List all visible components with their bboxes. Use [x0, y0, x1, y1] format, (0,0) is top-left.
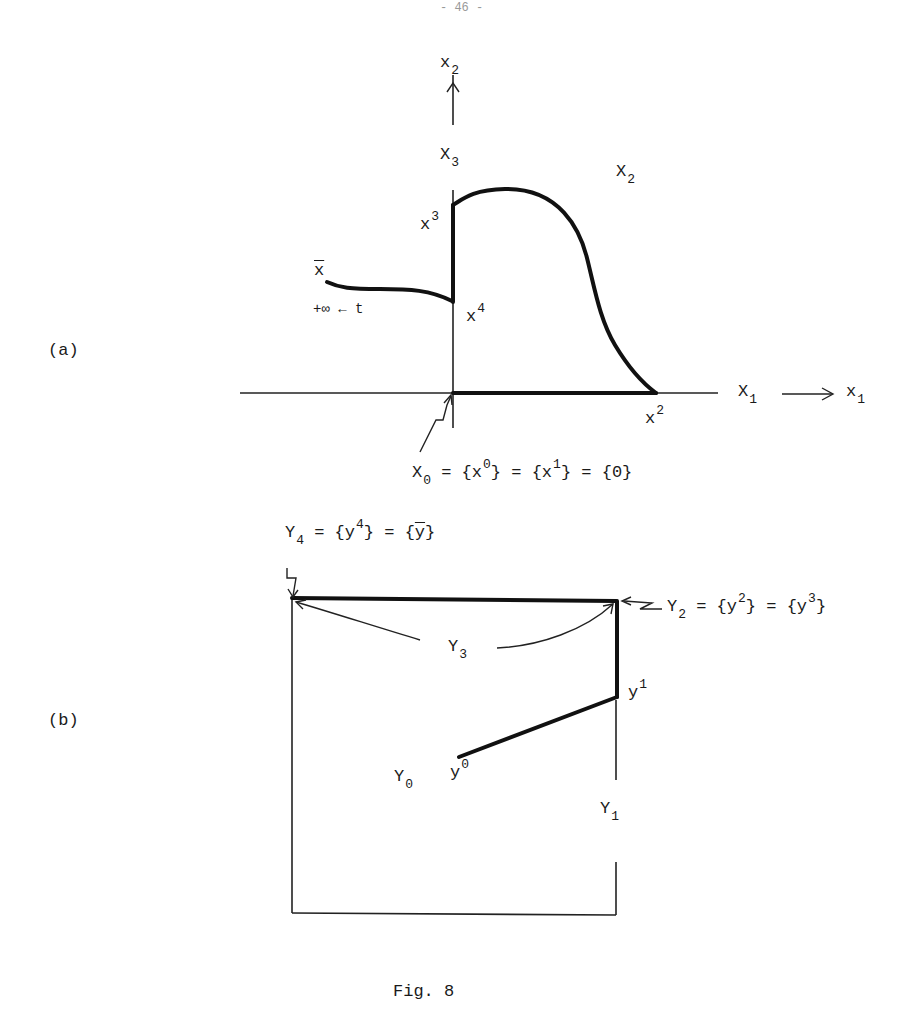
point-y0-label: y0 — [450, 764, 469, 781]
axis-x2-sub: 2 — [451, 63, 459, 78]
point-y1-main: y — [628, 683, 638, 702]
axis-x2-main: x — [440, 53, 450, 72]
set-X3-label: X3 — [440, 146, 459, 163]
x0-caption-sub: 0 — [423, 473, 431, 488]
y2-caption-sub: 2 — [678, 607, 686, 622]
point-y0-sup: 0 — [461, 757, 469, 772]
set-X1-sub: 1 — [749, 392, 757, 407]
set-X1-label: X1 — [738, 383, 757, 400]
set-X2-sub: 2 — [627, 172, 635, 187]
y4-caption-part: } = { — [364, 523, 415, 542]
point-x4-sup: 4 — [477, 301, 485, 316]
x0-caption-part: } = {0} — [561, 463, 632, 482]
set-Y1-sub: 1 — [611, 809, 619, 824]
axis-x2-label: x2 — [440, 54, 459, 71]
set-Y1-main: Y — [600, 799, 610, 818]
y4-caption-part: = {y — [304, 523, 355, 542]
page-number: - 46 - — [440, 2, 483, 14]
point-x2-main: x — [645, 409, 655, 428]
set-X3-sub: 3 — [451, 155, 459, 170]
y3-pointer-left — [296, 602, 420, 640]
y2-caption-part: } = {y — [746, 597, 807, 616]
panel-b-label: (b) — [48, 712, 79, 729]
x0-caption: X0 = {x0} = {x1} = {0} — [412, 464, 632, 481]
set-Y0-sub: 0 — [405, 777, 413, 792]
segment-y0-y1 — [459, 697, 617, 757]
y2-caption-part: = {y — [686, 597, 737, 616]
point-x4-main: x — [466, 307, 476, 326]
set-Y3-main: Y — [448, 637, 458, 656]
axis-x1-label: x1 — [846, 383, 865, 400]
set-X1-main: X — [738, 382, 748, 401]
origin-pointer-arrow — [420, 396, 451, 452]
set-X3-main: X — [440, 145, 450, 164]
set-Y3-sub: 3 — [459, 647, 467, 662]
point-x4-label: x4 — [466, 308, 485, 325]
ybar: y — [415, 523, 425, 542]
set-Y1-label: Y1 — [600, 800, 619, 817]
y4-caption-part: } — [425, 523, 435, 542]
set-X2-label: X2 — [616, 163, 635, 180]
y2-caption-sup: 3 — [808, 591, 816, 606]
point-x3-label: x3 — [420, 216, 439, 233]
limit-text: +∞ ← t — [313, 302, 363, 316]
panel-a-label: (a) — [48, 342, 79, 359]
x0-caption-part: X — [412, 463, 422, 482]
point-x3-sup: 3 — [431, 209, 439, 224]
box-bottom-edge — [292, 913, 616, 915]
y2-caption-part: } — [816, 597, 826, 616]
x0-caption-part: = {x — [431, 463, 482, 482]
point-y0-main: y — [450, 763, 460, 782]
point-x2-sup: 2 — [656, 403, 664, 418]
point-y1-sup: 1 — [639, 677, 647, 692]
y4-caption: Y4 = {y4} = {y} — [285, 524, 435, 541]
figure-caption: Fig. 8 — [393, 983, 454, 1000]
axis-x1-main: x — [846, 382, 856, 401]
y3-pointer-right — [497, 604, 613, 648]
y2-caption: Y2 = {y2} = {y3} — [667, 598, 826, 615]
x0-caption-sup: 0 — [483, 457, 491, 472]
point-x3-main: x — [420, 215, 430, 234]
region-x2-boundary-curve — [453, 189, 656, 393]
y4-pointer — [287, 568, 296, 596]
point-y1-label: y1 — [628, 684, 647, 701]
xbar-label: x — [314, 262, 324, 279]
set-Y3-label: Y3 — [448, 638, 467, 655]
x0-caption-sup: 1 — [553, 457, 561, 472]
point-x2-label: x2 — [645, 410, 664, 427]
axis-x1-sub: 1 — [857, 392, 865, 407]
y4-caption-sub: 4 — [296, 533, 304, 548]
y2-caption-sup: 2 — [738, 591, 746, 606]
set-Y0-label: Y0 — [394, 768, 413, 785]
segment-y4-y2 — [292, 598, 616, 601]
y4-caption-sup: 4 — [356, 517, 364, 532]
trajectory-xbar-to-x4 — [327, 282, 452, 301]
set-Y0-main: Y — [394, 767, 404, 786]
y4-caption-part: Y — [285, 523, 295, 542]
x0-caption-part: } = {x — [491, 463, 552, 482]
y2-caption-part: Y — [667, 597, 677, 616]
set-X2-main: X — [616, 162, 626, 181]
